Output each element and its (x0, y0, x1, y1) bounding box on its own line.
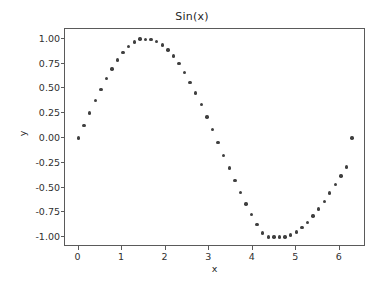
y-axis-tick-label: -0.75 (16, 206, 60, 217)
data-point (82, 124, 85, 127)
data-point (239, 191, 242, 194)
data-point (121, 51, 124, 54)
data-point (306, 221, 309, 224)
data-point (261, 231, 264, 234)
y-axis-tick-label: 0.50 (16, 82, 60, 93)
y-axis-tick-label: -0.25 (16, 156, 60, 167)
data-point (188, 81, 191, 84)
data-point (99, 88, 102, 91)
plot-area (64, 28, 365, 246)
y-axis-tick-label: 0.25 (16, 107, 60, 118)
data-point (194, 91, 197, 94)
x-axis-tick-label: 3 (193, 251, 223, 262)
data-point (283, 235, 286, 238)
data-point (323, 200, 326, 203)
data-point (267, 235, 270, 238)
data-point (244, 202, 247, 205)
data-point (177, 62, 180, 65)
data-point (255, 223, 258, 226)
x-axis-tick-label: 5 (280, 251, 310, 262)
data-point (339, 174, 342, 177)
data-point (144, 38, 147, 41)
data-point (183, 71, 186, 74)
data-point (116, 58, 119, 61)
data-point (278, 235, 281, 238)
data-point (228, 166, 231, 169)
x-axis-tick-label: 6 (324, 251, 354, 262)
data-point (216, 141, 219, 144)
chart-title: Sin(x) (0, 10, 384, 23)
data-point (300, 226, 303, 229)
data-point (350, 136, 353, 139)
data-point (205, 115, 208, 118)
data-point (334, 183, 337, 186)
data-point (88, 111, 91, 114)
x-axis-tick-label: 2 (150, 251, 180, 262)
data-point (311, 214, 314, 217)
data-point (328, 191, 331, 194)
data-point (77, 136, 80, 139)
x-axis-tick-label: 4 (237, 251, 267, 262)
data-point (200, 103, 203, 106)
data-point (155, 40, 158, 43)
y-axis-tick-label: -1.00 (16, 231, 60, 242)
data-point (345, 165, 348, 168)
data-point (166, 48, 169, 51)
data-point (133, 40, 136, 43)
data-point (289, 233, 292, 236)
data-point (94, 99, 97, 102)
data-point (295, 230, 298, 233)
data-point (272, 235, 275, 238)
data-point (138, 37, 141, 40)
y-axis-tick-label: 0.75 (16, 57, 60, 68)
y-axis-tick-labels: 1.000.750.500.250.00-0.25-0.50-0.75-1.00 (14, 28, 60, 246)
x-axis-tick-label: 1 (106, 251, 136, 262)
data-point (161, 43, 164, 46)
data-point (222, 154, 225, 157)
data-point (105, 77, 108, 80)
x-axis-tick-label: 0 (63, 251, 93, 262)
chart-figure: Sin(x) y 1.000.750.500.250.00-0.25-0.50-… (0, 0, 384, 288)
data-point (127, 45, 130, 48)
data-point (110, 67, 113, 70)
y-axis-tick-label: -0.50 (16, 181, 60, 192)
data-point (149, 38, 152, 41)
data-point (233, 179, 236, 182)
data-point (317, 207, 320, 210)
data-point (172, 54, 175, 57)
x-axis-label: x (64, 263, 365, 274)
y-axis-tick-label: 0.00 (16, 132, 60, 143)
y-axis-tick-label: 1.00 (16, 32, 60, 43)
data-point (211, 128, 214, 131)
data-point (250, 213, 253, 216)
